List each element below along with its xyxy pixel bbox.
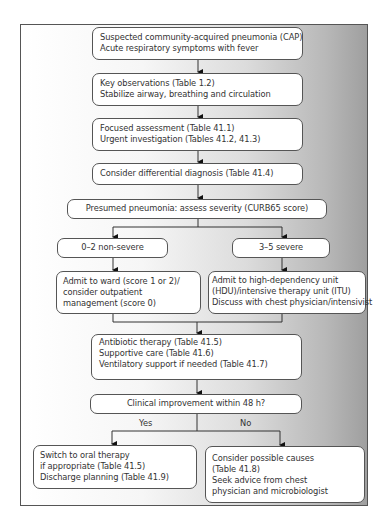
- node-text: Consider differential diagnosis (Table 4…: [100, 168, 295, 179]
- node-text: (HDU)/intensive therapy unit (ITU): [212, 286, 363, 297]
- node-text: 3–5 severe: [240, 242, 322, 253]
- node-text: Clinical improvement within 48 h?: [98, 398, 294, 409]
- node-text: Consider possible causes: [212, 453, 358, 464]
- node-text: Switch to oral therapy: [40, 450, 190, 461]
- node-text: Focused assessment (Table 41.1): [100, 123, 295, 134]
- node-text: Admit to high-dependency unit: [212, 275, 363, 286]
- node-text: Discuss with chest physician/intensivist: [212, 297, 363, 308]
- node-text: Admit to ward (score 1 or 2)/: [63, 276, 193, 287]
- node-text: consider outpatient: [63, 287, 193, 298]
- node-causes: Consider possible causes (Table 41.8) Se…: [205, 446, 365, 503]
- node-start: Suspected community-acquired pneumonia (…: [92, 27, 303, 60]
- node-text: Discharge planning (Table 41.9): [40, 472, 190, 483]
- node-text: Seek advice from chest: [212, 475, 358, 486]
- node-text: if appropriate (Table 41.5): [40, 461, 190, 472]
- node-text: management (score 0): [63, 298, 193, 309]
- edge-label-yes: Yes: [139, 418, 152, 428]
- node-oral: Switch to oral therapy if appropriate (T…: [33, 445, 197, 489]
- node-severe: 3–5 severe: [232, 238, 330, 258]
- node-differential: Consider differential diagnosis (Table 4…: [92, 163, 303, 185]
- edge-label-no: No: [240, 418, 251, 428]
- node-text: physician and microbiologist: [212, 486, 358, 497]
- node-non-severe: 0–2 non-severe: [57, 238, 168, 258]
- node-therapy: Antibiotic therapy (Table 41.5) Supporti…: [91, 334, 302, 380]
- node-assessment: Focused assessment (Table 41.1) Urgent i…: [92, 118, 303, 151]
- node-text: Acute respiratory symptoms with fever: [100, 43, 295, 54]
- node-ward: Admit to ward (score 1 or 2)/ consider o…: [56, 271, 201, 314]
- node-severity: Presumed pneumonia: assess severity (CUR…: [67, 199, 327, 219]
- node-text: Stabilize airway, breathing and circulat…: [100, 89, 295, 100]
- node-text: Supportive care (Table 41.6): [99, 348, 294, 359]
- node-improvement: Clinical improvement within 48 h?: [90, 394, 302, 414]
- node-hdu: Admit to high-dependency unit (HDU)/inte…: [208, 271, 366, 314]
- node-text: Urgent investigation (Tables 41.2, 41.3): [100, 134, 295, 145]
- node-text: Suspected community-acquired pneumonia (…: [100, 32, 295, 43]
- node-text: Key observations (Table 1.2): [100, 78, 295, 89]
- node-text: Antibiotic therapy (Table 41.5): [99, 337, 294, 348]
- node-observations: Key observations (Table 1.2) Stabilize a…: [92, 73, 303, 106]
- node-text: Presumed pneumonia: assess severity (CUR…: [75, 203, 319, 214]
- node-text: 0–2 non-severe: [65, 242, 160, 253]
- node-text: Ventilatory support if needed (Table 41.…: [99, 359, 294, 370]
- node-text: (Table 41.8): [212, 464, 358, 475]
